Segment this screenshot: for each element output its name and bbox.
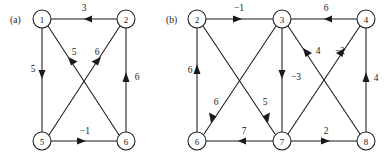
edge-weight: 7 bbox=[242, 126, 247, 136]
node-label: 6 bbox=[124, 137, 129, 147]
edge-weight: 6 bbox=[214, 97, 219, 107]
edge-weight: 5 bbox=[263, 97, 268, 107]
node-b-6[interactable]: 6 bbox=[188, 132, 206, 150]
panel-b: (b) −1 6 6 −3 4 bbox=[166, 3, 379, 150]
arrowhead-icon bbox=[84, 16, 92, 23]
arrowhead-icon bbox=[321, 138, 330, 145]
node-b-8[interactable]: 8 bbox=[357, 132, 375, 150]
node-label: 1 bbox=[40, 15, 45, 25]
arrowhead-icon bbox=[238, 138, 246, 145]
node-a-6[interactable]: 6 bbox=[117, 132, 135, 150]
edge-b-7-6: 7 bbox=[206, 126, 273, 145]
edge-a-5-6: −1 bbox=[51, 126, 117, 145]
node-a-2[interactable]: 2 bbox=[117, 10, 135, 28]
edge-b-3-7: −3 bbox=[279, 28, 302, 132]
edge-weight: 3 bbox=[82, 3, 87, 13]
arrowhead-icon bbox=[92, 57, 102, 66]
node-label: 4 bbox=[364, 15, 369, 25]
edge-weight: −2 bbox=[335, 46, 345, 56]
node-label: 6 bbox=[195, 137, 200, 147]
arrowhead-icon bbox=[39, 70, 46, 79]
edge-weight: −1 bbox=[234, 3, 244, 13]
edge-weight: −1 bbox=[80, 126, 90, 136]
edge-weight: 6 bbox=[95, 47, 100, 57]
node-b-2[interactable]: 2 bbox=[188, 10, 206, 28]
figure-canvas: (a) 3 5 5 6 6 bbox=[0, 0, 390, 161]
edge-weight: 6 bbox=[324, 3, 329, 13]
arrowhead-icon bbox=[68, 57, 78, 66]
node-b-3[interactable]: 3 bbox=[273, 10, 291, 28]
node-a-5[interactable]: 5 bbox=[33, 132, 51, 150]
graph-figure: (a) 3 5 5 6 6 bbox=[0, 0, 390, 161]
edge-b-8-4: 4 bbox=[363, 28, 379, 132]
edge-a-6-2: 6 bbox=[123, 28, 140, 132]
edge-b-6-2: 6 bbox=[188, 28, 201, 132]
edge-a-1-5: 5 bbox=[31, 28, 46, 132]
edge-b-4-3: 6 bbox=[291, 3, 357, 23]
edge-b-7-8: 2 bbox=[291, 126, 357, 145]
edge-a-2-1: 3 bbox=[51, 3, 117, 23]
node-b-7[interactable]: 7 bbox=[273, 132, 291, 150]
arrowhead-icon bbox=[279, 70, 286, 79]
panel-b-caption: (b) bbox=[166, 15, 177, 26]
arrowhead-icon bbox=[77, 138, 86, 145]
edge-weight: 2 bbox=[324, 126, 329, 136]
node-label: 2 bbox=[124, 15, 129, 25]
arrowhead-icon bbox=[363, 72, 370, 82]
edge-b-2-3: −1 bbox=[206, 3, 273, 23]
node-b-4[interactable]: 4 bbox=[357, 10, 375, 28]
node-label: 8 bbox=[364, 137, 369, 147]
arrowhead-icon bbox=[233, 16, 242, 23]
node-label: 5 bbox=[40, 137, 45, 147]
edge-weight: 4 bbox=[374, 73, 379, 83]
edge-a-5-2: 6 bbox=[49, 26, 120, 135]
arrowhead-icon bbox=[303, 48, 312, 57]
edge-weight: 5 bbox=[72, 47, 77, 57]
node-label: 7 bbox=[280, 137, 285, 147]
panel-a-caption: (a) bbox=[10, 15, 21, 26]
edge-weight: 4 bbox=[316, 46, 321, 56]
node-label: 3 bbox=[280, 15, 285, 25]
arrowhead-icon bbox=[194, 64, 201, 74]
node-label: 2 bbox=[195, 15, 200, 25]
edge-weight: 6 bbox=[188, 65, 193, 75]
arrowhead-icon bbox=[123, 72, 130, 82]
panel-a: (a) 3 5 5 6 6 bbox=[10, 3, 140, 150]
edge-weight: −3 bbox=[291, 72, 301, 82]
edge-a-6-1: 5 bbox=[48, 26, 119, 135]
edge-weight: 5 bbox=[31, 64, 36, 74]
edge-weight: 6 bbox=[135, 72, 140, 82]
arrowhead-icon bbox=[324, 16, 332, 23]
node-a-1[interactable]: 1 bbox=[33, 10, 51, 28]
